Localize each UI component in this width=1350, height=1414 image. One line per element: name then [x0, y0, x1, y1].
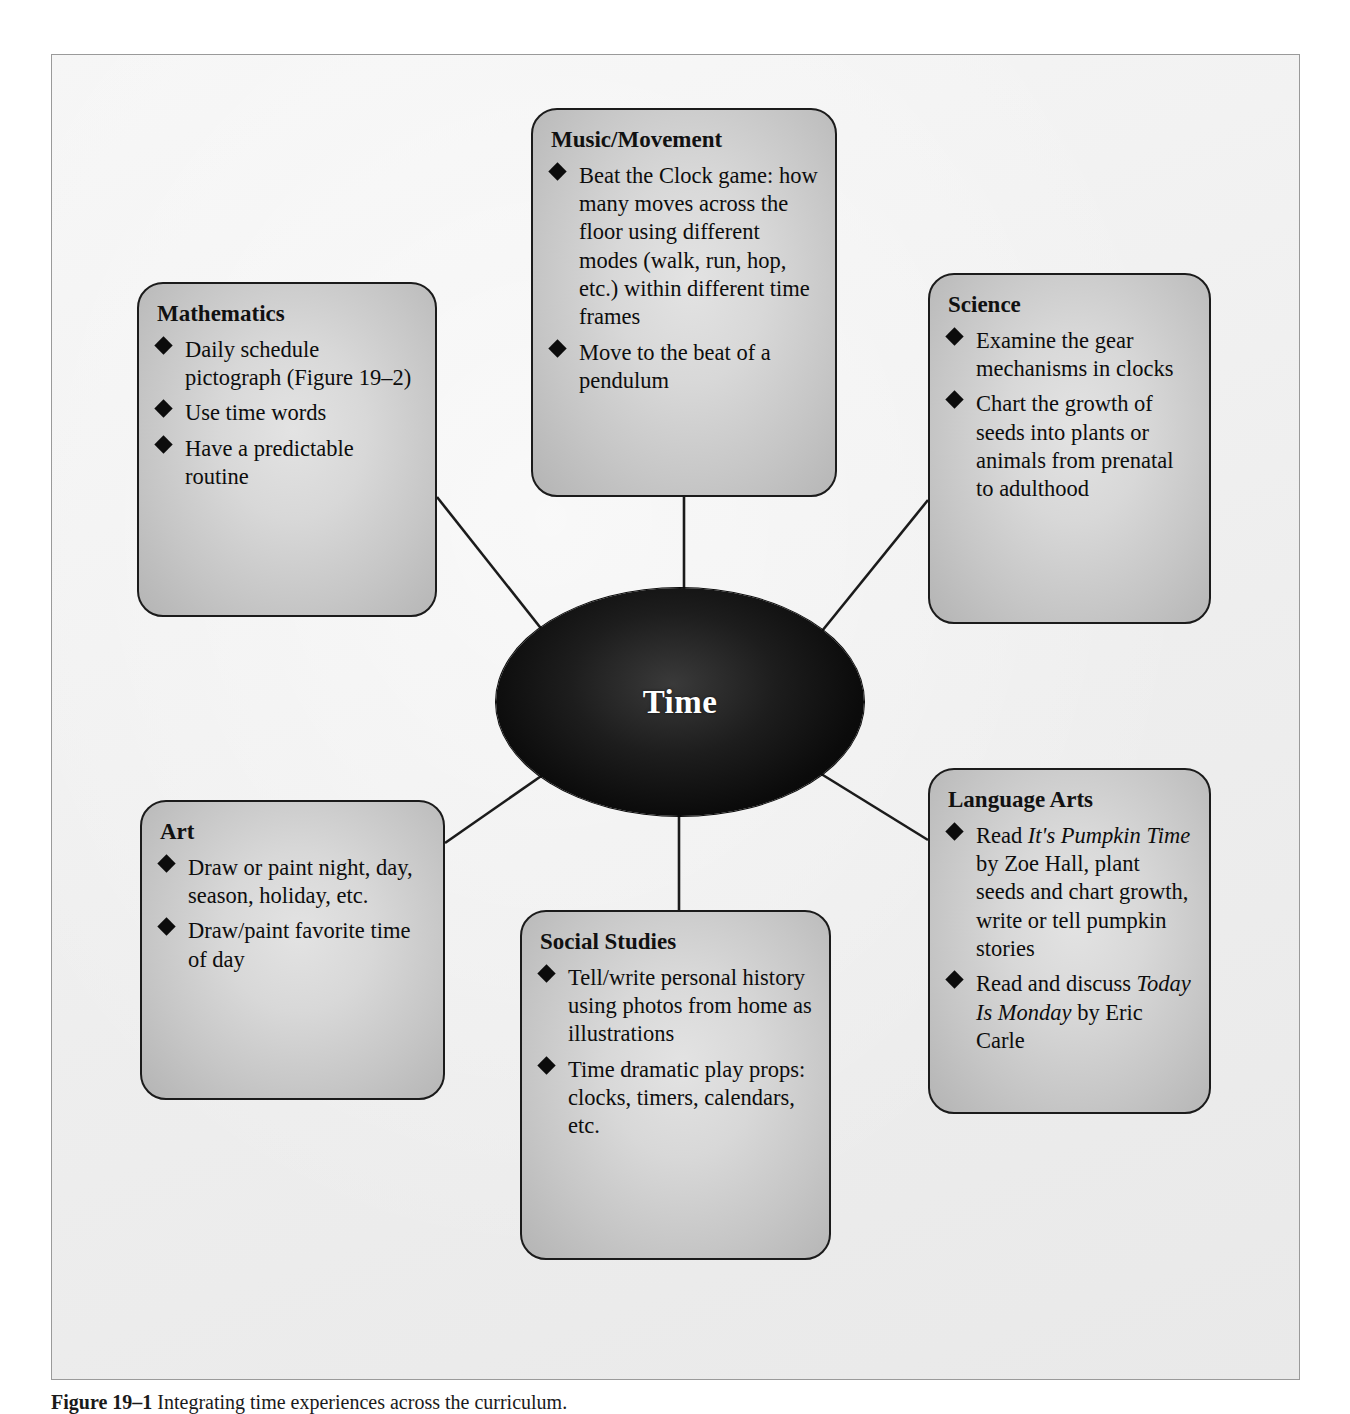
list-item-text: Daily schedule pictograph (Figure 19–2): [185, 337, 411, 390]
list-item: Move to the beat of a pendulum: [549, 339, 819, 396]
list-item: Use time words: [155, 399, 419, 427]
node-title-mathematics: Mathematics: [157, 300, 419, 329]
diamond-bullet-icon: [945, 391, 963, 409]
list-item: Daily schedule pictograph (Figure 19–2): [155, 336, 419, 393]
list-item-text: Chart the growth of seeds into plants or…: [976, 391, 1173, 501]
diamond-bullet-icon: [945, 971, 963, 989]
list-item-text: Beat the Clock game: how many moves acro…: [579, 163, 818, 330]
node-title-music-movement: Music/Movement: [551, 126, 819, 155]
list-item: Examine the gear mechanisms in clocks: [946, 327, 1193, 384]
list-item: Read It's Pumpkin Time by Zoe Hall, plan…: [946, 822, 1193, 964]
node-items-music-movement: Beat the Clock game: how many moves acro…: [549, 162, 819, 396]
list-item-text: Have a predictable routine: [185, 436, 354, 489]
figure-caption-text: Integrating time experiences across the …: [157, 1391, 567, 1413]
diamond-bullet-icon: [154, 400, 172, 418]
node-items-social-studies: Tell/write personal history using photos…: [538, 964, 813, 1141]
list-item: Have a predictable routine: [155, 435, 419, 492]
list-item-text: Use time words: [185, 400, 326, 425]
node-title-language-arts: Language Arts: [948, 786, 1193, 815]
node-music-movement[interactable]: Music/Movement Beat the Clock game: how …: [531, 108, 837, 497]
diamond-bullet-icon: [548, 339, 566, 357]
center-node-label: Time: [643, 684, 718, 721]
list-item-text: Time dramatic play props: clocks, timers…: [568, 1057, 805, 1139]
node-items-art: Draw or paint night, day, season, holida…: [158, 854, 427, 974]
node-items-language-arts: Read It's Pumpkin Time by Zoe Hall, plan…: [946, 822, 1193, 1056]
node-mathematics[interactable]: Mathematics Daily schedule pictograph (F…: [137, 282, 437, 617]
node-art[interactable]: Art Draw or paint night, day, season, ho…: [140, 800, 445, 1100]
node-social-studies[interactable]: Social Studies Tell/write personal histo…: [520, 910, 831, 1260]
list-item-text: Draw/paint favorite time of day: [188, 918, 410, 971]
node-language-arts[interactable]: Language Arts Read It's Pumpkin Time by …: [928, 768, 1211, 1114]
list-item: Tell/write personal history using photos…: [538, 964, 813, 1049]
node-title-art: Art: [160, 818, 427, 847]
figure-caption-label: Figure 19–1: [51, 1391, 152, 1413]
list-item: Time dramatic play props: clocks, timers…: [538, 1056, 813, 1141]
list-item: Read and discuss Today Is Monday by Eric…: [946, 970, 1193, 1055]
node-title-social-studies: Social Studies: [540, 928, 813, 957]
figure-caption: Figure 19–1 Integrating time experiences…: [51, 1391, 951, 1414]
diamond-bullet-icon: [537, 1056, 555, 1074]
list-item-text: Read and discuss Today Is Monday by Eric…: [976, 971, 1191, 1053]
list-item: Draw/paint favorite time of day: [158, 917, 427, 974]
list-item-text: Move to the beat of a pendulum: [579, 340, 771, 393]
list-item: Beat the Clock game: how many moves acro…: [549, 162, 819, 332]
list-item-text: Examine the gear mechanisms in clocks: [976, 328, 1173, 381]
diamond-bullet-icon: [154, 336, 172, 354]
diamond-bullet-icon: [945, 327, 963, 345]
list-item: Draw or paint night, day, season, holida…: [158, 854, 427, 911]
list-item: Chart the growth of seeds into plants or…: [946, 390, 1193, 503]
list-item-text: Draw or paint night, day, season, holida…: [188, 855, 413, 908]
node-items-mathematics: Daily schedule pictograph (Figure 19–2) …: [155, 336, 419, 492]
diamond-bullet-icon: [157, 918, 175, 936]
list-item-text: Tell/write personal history using photos…: [568, 965, 812, 1047]
diamond-bullet-icon: [157, 854, 175, 872]
list-item-text: Read It's Pumpkin Time by Zoe Hall, plan…: [976, 823, 1190, 961]
diamond-bullet-icon: [548, 162, 566, 180]
diamond-bullet-icon: [154, 435, 172, 453]
center-node-time[interactable]: Time: [496, 588, 864, 816]
diamond-bullet-icon: [945, 822, 963, 840]
node-title-science: Science: [948, 291, 1193, 320]
node-items-science: Examine the gear mechanisms in clocks Ch…: [946, 327, 1193, 504]
node-science[interactable]: Science Examine the gear mechanisms in c…: [928, 273, 1211, 624]
diamond-bullet-icon: [537, 964, 555, 982]
